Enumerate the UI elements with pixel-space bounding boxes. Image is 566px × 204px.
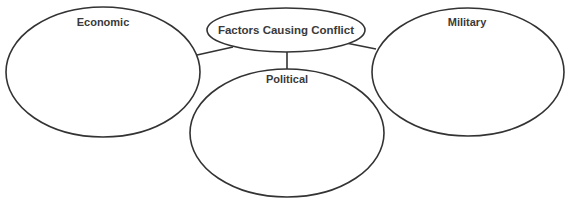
node-political-label: Political xyxy=(266,73,308,85)
node-center-label: Factors Causing Conflict xyxy=(218,24,354,36)
node-political-ellipse xyxy=(190,69,384,197)
node-military-label: Military xyxy=(448,16,487,28)
connector-center-military xyxy=(346,43,376,49)
diagram-svg: Economic Military Political Factors Caus… xyxy=(0,0,566,204)
node-center: Factors Causing Conflict xyxy=(207,8,365,52)
concept-web-diagram: Economic Military Political Factors Caus… xyxy=(0,0,566,204)
connector-center-economic xyxy=(197,47,233,55)
node-political: Political xyxy=(190,69,384,197)
node-economic-label: Economic xyxy=(77,16,130,28)
node-economic: Economic xyxy=(6,7,200,137)
node-military: Military xyxy=(372,8,564,136)
